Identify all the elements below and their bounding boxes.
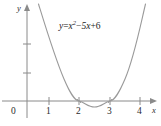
parabola-figure: y x 0 1 2 3 4 y=x2−5x+6 — [0, 0, 161, 126]
origin-label: 0 — [11, 107, 16, 117]
x-tick-label-4: 4 — [137, 107, 142, 117]
equation-annotation: y=x2−5x+6 — [59, 22, 100, 32]
x-axis-label: x — [152, 106, 156, 115]
x-axis-arrow-icon — [150, 98, 157, 104]
y-axis-arrow-icon — [24, 4, 30, 11]
x-tick-label-2: 2 — [76, 107, 81, 117]
y-axis-label: y — [17, 4, 21, 13]
equation-term3: 6 — [96, 21, 101, 31]
x-tick-label-1: 1 — [46, 107, 51, 117]
parabola-curve — [39, 4, 146, 107]
x-tick-label-3: 3 — [107, 107, 112, 117]
